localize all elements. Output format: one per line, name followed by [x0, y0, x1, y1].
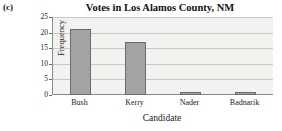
chart-figure: (c) Votes in Los Alamos County, NM Frequ… — [0, 0, 282, 131]
y-tick-mark — [49, 95, 52, 96]
y-tick-label: 0 — [34, 91, 48, 99]
x-tick-label: Badnarik — [215, 98, 275, 108]
y-tick-mark — [49, 17, 52, 18]
plot-area: Frequency — [52, 17, 273, 95]
gridline — [53, 17, 273, 18]
y-tick-mark — [49, 64, 52, 65]
y-tick-mark — [49, 48, 52, 49]
panel-label: (c) — [3, 2, 13, 13]
bar — [235, 92, 256, 95]
y-tick-label: 5 — [34, 75, 48, 83]
y-tick-mark — [49, 79, 52, 80]
chart-title: Votes in Los Alamos County, NM — [46, 1, 274, 14]
y-tick-label: 15 — [34, 44, 48, 52]
y-tick-label: 10 — [34, 60, 48, 68]
bar — [70, 29, 91, 95]
x-tick-label: Nader — [160, 98, 220, 108]
y-tick-label: 20 — [34, 29, 48, 37]
x-tick-label: Kerry — [105, 98, 165, 108]
y-tick-mark — [49, 33, 52, 34]
y-axis-label: Frequency — [56, 7, 66, 69]
x-tick-label: Bush — [50, 98, 110, 108]
bar — [180, 92, 201, 95]
y-tick-label: 25 — [34, 13, 48, 21]
bar — [125, 42, 146, 95]
x-axis-label: Candidate — [52, 112, 272, 124]
